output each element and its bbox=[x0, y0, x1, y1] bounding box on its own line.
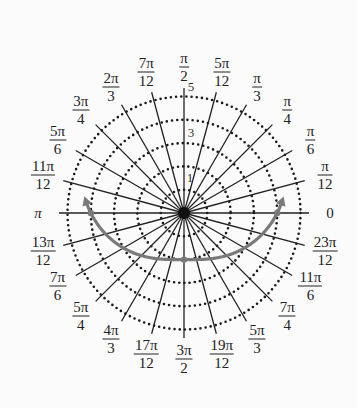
angle-label-denominator: 4 bbox=[72, 110, 89, 126]
angle-label: 4π3 bbox=[102, 323, 119, 356]
angle-label-denominator: 3 bbox=[102, 340, 119, 356]
angle-label-denominator: 2 bbox=[175, 360, 192, 376]
polar-graph: 1 3 5 π25π12π3π4π6π12023π1211π67π45π319π… bbox=[0, 0, 357, 408]
angle-label-numerator: 13π bbox=[31, 234, 56, 251]
angle-label: 3π4 bbox=[72, 93, 89, 126]
angle-label-numerator: 7π bbox=[138, 55, 155, 72]
curve-point bbox=[274, 210, 280, 216]
angle-label-numerator: 3π bbox=[175, 343, 192, 360]
angle-label-numerator: π bbox=[179, 51, 189, 68]
angle-label-denominator: 3 bbox=[248, 340, 265, 356]
angle-label-numerator: 5π bbox=[49, 124, 66, 141]
angle-label-denominator: 12 bbox=[138, 72, 155, 88]
angle-label-numerator: 2π bbox=[102, 70, 119, 87]
angle-label: π6 bbox=[306, 124, 316, 157]
spoke bbox=[96, 213, 184, 301]
angle-label: 5π12 bbox=[213, 55, 230, 88]
angle-label-denominator: 12 bbox=[31, 251, 56, 267]
spoke bbox=[184, 213, 216, 334]
angle-label-numerator: 5π bbox=[72, 300, 89, 317]
angle-label: 13π12 bbox=[31, 234, 56, 267]
angle-label-denominator: 6 bbox=[49, 141, 66, 157]
angle-label: π3 bbox=[252, 70, 262, 103]
angle-label: 0 bbox=[326, 206, 334, 221]
spoke bbox=[96, 125, 184, 213]
angle-label-denominator: 6 bbox=[306, 141, 316, 157]
angle-label-denominator: 12 bbox=[213, 72, 230, 88]
angle-label-text: 0 bbox=[326, 205, 334, 221]
angle-label-numerator: 4π bbox=[102, 323, 119, 340]
angle-label-numerator: π bbox=[318, 159, 333, 176]
ring-label-3: 3 bbox=[188, 125, 195, 141]
angle-label-numerator: π bbox=[306, 124, 316, 141]
angle-label-denominator: 12 bbox=[318, 176, 333, 192]
angle-label: 5π4 bbox=[72, 300, 89, 333]
spoke bbox=[63, 213, 184, 245]
curve-point bbox=[181, 256, 187, 262]
spoke bbox=[63, 181, 184, 213]
angle-label: π bbox=[34, 206, 42, 221]
ring-label-1: 1 bbox=[187, 170, 194, 186]
spoke bbox=[184, 92, 216, 213]
angle-label: 5π3 bbox=[248, 323, 265, 356]
angle-label-denominator: 4 bbox=[279, 317, 296, 333]
angle-label-numerator: 19π bbox=[209, 338, 234, 355]
angle-label: π12 bbox=[318, 159, 333, 192]
angle-label-denominator: 2 bbox=[179, 68, 189, 84]
angle-label-numerator: 7π bbox=[279, 300, 296, 317]
origin-dot bbox=[178, 207, 190, 219]
angle-label: 5π6 bbox=[49, 124, 66, 157]
angle-label-denominator: 3 bbox=[252, 87, 262, 103]
angle-label: 2π3 bbox=[102, 70, 119, 103]
angle-label: 3π2 bbox=[175, 343, 192, 376]
spoke bbox=[122, 105, 185, 213]
angle-label: 7π12 bbox=[138, 55, 155, 88]
angle-label-numerator: 5π bbox=[248, 323, 265, 340]
curve-point bbox=[88, 210, 94, 216]
angle-label-numerator: 5π bbox=[213, 55, 230, 72]
angle-label-numerator: 23π bbox=[313, 234, 338, 251]
angle-label-denominator: 12 bbox=[31, 176, 55, 192]
angle-label: 7π4 bbox=[279, 300, 296, 333]
spoke bbox=[76, 213, 184, 276]
angle-label: π4 bbox=[282, 93, 292, 126]
angle-label: 17π12 bbox=[134, 338, 159, 371]
angle-label-denominator: 3 bbox=[102, 87, 119, 103]
angle-label-numerator: 7π bbox=[49, 270, 66, 287]
angle-label-numerator: 11π bbox=[31, 159, 55, 176]
angle-label-denominator: 12 bbox=[313, 251, 338, 267]
angle-label-denominator: 12 bbox=[134, 355, 159, 371]
angle-label: 19π12 bbox=[209, 338, 234, 371]
angle-label: π2 bbox=[179, 51, 189, 84]
spoke bbox=[152, 213, 184, 334]
spoke bbox=[184, 181, 305, 213]
angle-label-denominator: 4 bbox=[282, 110, 292, 126]
angle-label-text: π bbox=[34, 205, 42, 221]
spoke bbox=[184, 213, 305, 245]
angle-label-numerator: 11π bbox=[298, 270, 322, 287]
angle-label-numerator: 17π bbox=[134, 338, 159, 355]
angle-label: 23π12 bbox=[313, 234, 338, 267]
angle-label-numerator: π bbox=[252, 70, 262, 87]
spoke bbox=[184, 213, 247, 321]
angle-label-denominator: 12 bbox=[209, 355, 234, 371]
angle-label-denominator: 6 bbox=[49, 287, 66, 303]
angle-label: 11π12 bbox=[31, 159, 55, 192]
angle-label-numerator: 3π bbox=[72, 93, 89, 110]
angle-label: 11π6 bbox=[298, 270, 322, 303]
angle-label-numerator: π bbox=[282, 93, 292, 110]
angle-label-denominator: 6 bbox=[298, 287, 322, 303]
spoke bbox=[184, 213, 272, 301]
spoke bbox=[152, 92, 184, 213]
spoke bbox=[184, 151, 292, 214]
angle-label-denominator: 4 bbox=[72, 317, 89, 333]
angle-label: 7π6 bbox=[49, 270, 66, 303]
